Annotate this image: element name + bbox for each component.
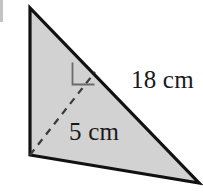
height-length-label: 5 cm: [69, 119, 119, 144]
triangle-diagram-svg: [0, 0, 203, 195]
triangle-shape: [30, 8, 199, 183]
geometry-figure: 18 cm 5 cm: [0, 0, 203, 195]
hypotenuse-length-label: 18 cm: [131, 67, 194, 92]
